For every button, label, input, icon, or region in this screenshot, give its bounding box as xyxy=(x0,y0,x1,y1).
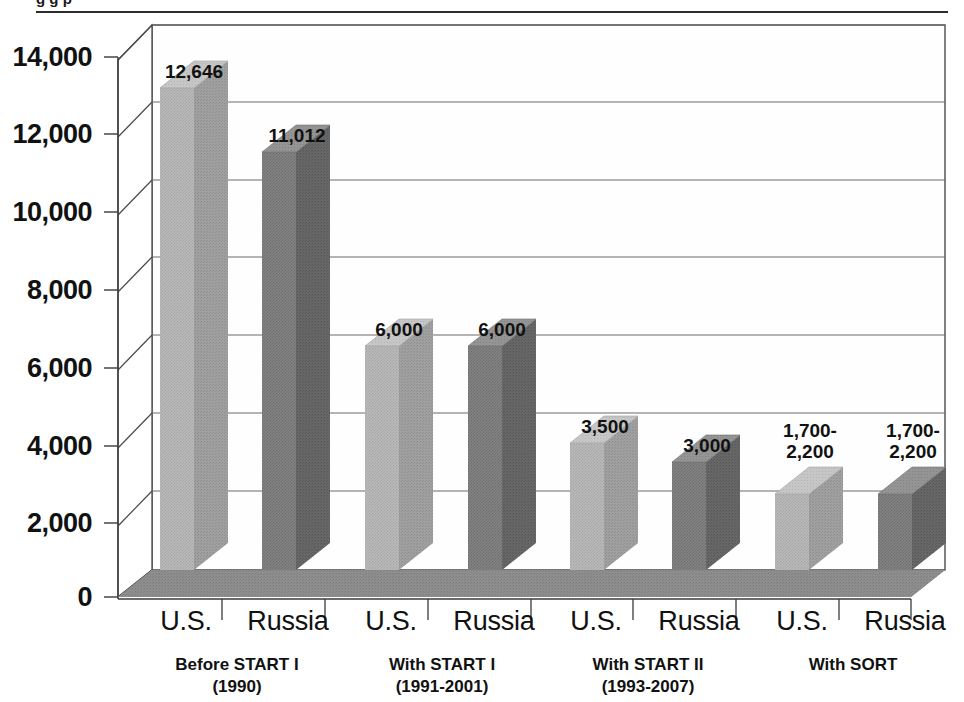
left-wall xyxy=(118,25,152,597)
x-group-label-before-start-i: Before START I (1990) xyxy=(175,654,298,698)
value-label-bar-5: 3,500 xyxy=(581,417,629,438)
bar-1 xyxy=(160,61,228,570)
y-tick-label-2000: 2,000 xyxy=(0,508,92,539)
value-label-bar-1: 12,646 xyxy=(165,62,223,83)
x-category-label-8: Russia xyxy=(864,606,945,637)
y-tick-label-0: 0 xyxy=(0,582,92,613)
y-tick-label-14000: 14,000 xyxy=(0,42,92,73)
x-category-label-5: U.S. xyxy=(570,606,622,637)
x-group-label-with-sort: With SORT xyxy=(809,654,898,676)
value-label-bar-4: 6,000 xyxy=(478,320,526,341)
x-category-label-6: Russia xyxy=(658,606,739,637)
bar-5 xyxy=(570,416,638,570)
bar-2 xyxy=(262,125,330,570)
x-category-label-4: Russia xyxy=(453,606,534,637)
y-tick-label-8000: 8,000 xyxy=(0,275,92,306)
x-category-label-2: Russia xyxy=(247,606,328,637)
bar-4 xyxy=(468,319,536,570)
value-label-bar-2: 11,012 xyxy=(268,126,325,147)
bar-3 xyxy=(365,319,433,570)
y-tick-label-10000: 10,000 xyxy=(0,197,92,228)
x-category-label-7: U.S. xyxy=(776,606,828,637)
x-category-label-3: U.S. xyxy=(365,606,417,637)
x-group-label-with-start-ii: With START II (1993-2007) xyxy=(593,654,704,698)
chart-figure: g g p xyxy=(0,0,964,702)
value-label-bar-6: 3,000 xyxy=(683,436,731,457)
y-tick-label-6000: 6,000 xyxy=(0,353,92,384)
y-tick-label-4000: 4,000 xyxy=(0,431,92,462)
value-label-bar-7: 1,700- 2,200 xyxy=(783,421,837,462)
y-tick-label-12000: 12,000 xyxy=(0,119,92,150)
value-label-bar-8: 1,700- 2,200 xyxy=(886,421,940,462)
x-category-label-1: U.S. xyxy=(160,606,212,637)
y-axis xyxy=(104,57,118,599)
plot-area xyxy=(0,0,964,702)
x-group-label-with-start-i: With START I (1991-2001) xyxy=(389,654,495,698)
value-label-bar-3: 6,000 xyxy=(375,320,423,341)
